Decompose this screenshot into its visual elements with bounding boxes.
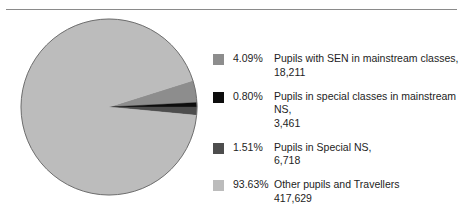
legend-swatch-icon: [213, 54, 224, 65]
legend-item-sen-mainstream: 4.09% Pupils with SEN in mainstream clas…: [213, 52, 461, 79]
legend-label-line1: Pupils in special classes in mainstream …: [274, 90, 456, 116]
legend-label-line2: 3,461: [274, 117, 461, 131]
legend-swatch-icon: [213, 143, 224, 154]
pie-slice-group: [21, 19, 197, 195]
legend-label-line2: 6,718: [274, 154, 461, 168]
legend-label-line1: Other pupils and Travellers: [274, 178, 399, 190]
horizontal-rule: [6, 9, 457, 10]
legend-item-other-pupils-travellers: 93.63% Other pupils and Travellers417,62…: [213, 178, 461, 205]
legend-label: Pupils in Special NS,6,718: [274, 141, 461, 168]
pie-chart: [14, 12, 204, 202]
legend-swatch-icon: [213, 180, 224, 191]
legend-percent: 4.09%: [233, 52, 274, 66]
figure-container: 4.09% Pupils with SEN in mainstream clas…: [0, 0, 463, 218]
legend-swatch-icon: [213, 92, 224, 103]
legend-percent: 93.63%: [233, 178, 274, 192]
legend-label-line1: Pupils with SEN in mainstream classes,: [274, 52, 458, 64]
legend-label: Other pupils and Travellers417,629: [274, 178, 461, 205]
legend: 4.09% Pupils with SEN in mainstream clas…: [213, 52, 461, 216]
legend-label-line2: 417,629: [274, 192, 461, 206]
legend-item-special-classes-mainstream: 0.80% Pupils in special classes in mains…: [213, 90, 461, 131]
legend-label-line1: Pupils in Special NS,: [274, 141, 371, 153]
pie-chart-svg: [14, 12, 204, 202]
legend-label-line2: 18,211: [274, 66, 461, 80]
legend-item-special-ns: 1.51% Pupils in Special NS,6,718: [213, 141, 461, 168]
legend-label: Pupils in special classes in mainstream …: [274, 90, 461, 131]
legend-percent: 0.80%: [233, 90, 274, 104]
legend-label: Pupils with SEN in mainstream classes,18…: [274, 52, 461, 79]
legend-percent: 1.51%: [233, 141, 274, 155]
